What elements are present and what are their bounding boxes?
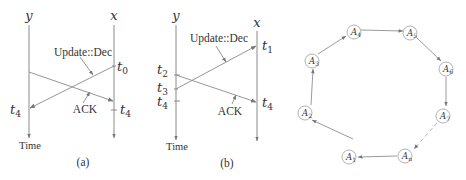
update-label-pointer [80, 57, 93, 75]
ack-label: ACK [73, 103, 98, 115]
node-a4: A4 [347, 25, 361, 39]
ack-label-pointer [83, 92, 90, 103]
edge-a3-a4 [318, 36, 346, 54]
time-t1: t1 [262, 38, 273, 55]
axis-label-y: y [24, 8, 33, 23]
panel-b: y x Update::Dec ACK t1 t4 t2 t3 t4 Time … [157, 8, 273, 170]
update-message-arrow [176, 46, 256, 89]
axis-label-y: y [171, 8, 180, 23]
ack-label: ACK [218, 105, 243, 117]
time-t2: t2 [157, 62, 168, 79]
ack-label-pointer [232, 95, 236, 104]
diagram-canvas: y x Update::Dec ACK t0 t4 t4 Time (a) y … [0, 0, 466, 180]
update-dec-label: Update::Dec [190, 32, 248, 45]
ack-message-arrow [176, 75, 256, 102]
update-label-pointer [216, 46, 226, 62]
time-axis-label: Time [166, 141, 188, 152]
edge-a7-an [414, 123, 437, 149]
time-t4-left: t4 [10, 102, 21, 119]
node-a6: A6 [439, 62, 453, 76]
time-t4-right: t4 [120, 102, 131, 119]
caption-a: (a) [77, 156, 90, 169]
edge-a1-a2 [312, 120, 353, 139]
edge-an-a1 [358, 156, 397, 157]
axis-label-x: x [110, 8, 118, 23]
node-a5: A5 [403, 26, 417, 40]
time-t4-right: t4 [262, 95, 273, 112]
node-a1: A1 [342, 150, 356, 164]
edge-a2-a3 [311, 69, 313, 105]
time-t0: t0 [117, 59, 128, 76]
node-a7: A7 [436, 109, 450, 123]
edge-a5-a6 [417, 38, 441, 61]
node-a2: A2 [298, 106, 312, 120]
panel-a: y x Update::Dec ACK t0 t4 t4 Time (a) [10, 8, 131, 169]
time-axis-label: Time [19, 140, 41, 151]
caption-b: (b) [220, 157, 234, 170]
node-an: An [398, 149, 412, 163]
ack-message-arrow [29, 72, 113, 101]
update-dec-label: Update::Dec [54, 46, 112, 59]
edge-a4-a5 [361, 30, 403, 31]
axis-label-x: x [253, 15, 261, 30]
node-a3: A3 [305, 54, 319, 68]
ring-diagram: A1 A2 A3 A4 A5 A6 A7 An [298, 25, 453, 164]
